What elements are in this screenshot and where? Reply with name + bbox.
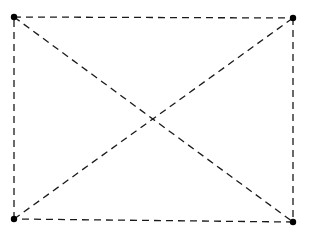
complete-graph-diagram — [0, 0, 309, 238]
edges — [14, 17, 293, 222]
edge-bottom — [14, 219, 293, 222]
node-bottom-right — [290, 219, 296, 225]
node-top-right — [290, 15, 296, 21]
node-bottom-left — [11, 216, 17, 222]
node-top-left — [11, 14, 17, 20]
edge-top — [14, 17, 293, 18]
